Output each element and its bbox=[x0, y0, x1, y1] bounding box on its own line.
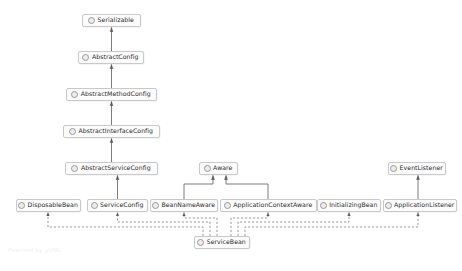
interface-circle-icon bbox=[18, 202, 25, 209]
class-node-label: Aware bbox=[213, 165, 232, 171]
interface-circle-icon bbox=[88, 17, 95, 24]
class-node-label: Serializable bbox=[98, 17, 134, 23]
class-node-label: AbstractServiceConfig bbox=[81, 165, 151, 171]
class-node-label: EventListener bbox=[400, 165, 443, 171]
class-node-label: BeanNameAware bbox=[161, 202, 215, 208]
edge-service-bean-to-application-listener bbox=[245, 213, 418, 237]
class-node-aware[interactable]: Aware bbox=[199, 162, 238, 175]
edge-bean-name-aware-to-aware bbox=[184, 176, 213, 200]
class-node-event-listener[interactable]: EventListener bbox=[388, 162, 446, 175]
interface-circle-icon bbox=[91, 202, 98, 209]
edge-service-bean-to-disposable-bean bbox=[48, 213, 203, 237]
watermark-label: Powered by yUML bbox=[8, 247, 61, 253]
class-node-label: DisposableBean bbox=[28, 202, 78, 208]
class-node-service-config[interactable]: ServiceConfig bbox=[87, 199, 148, 212]
interface-circle-icon bbox=[320, 202, 327, 209]
class-node-bean-name-aware[interactable]: BeanNameAware bbox=[150, 199, 218, 212]
edge-service-bean-to-bean-name-aware bbox=[184, 213, 217, 237]
edge-application-context-aware-to-aware bbox=[226, 176, 268, 200]
class-node-label: ServiceConfig bbox=[100, 202, 143, 208]
class-node-disposable-bean[interactable]: DisposableBean bbox=[16, 199, 81, 212]
interface-circle-icon bbox=[82, 54, 89, 61]
class-node-label: InitializingBean bbox=[329, 202, 377, 208]
interface-circle-icon bbox=[385, 202, 392, 209]
interface-circle-icon bbox=[197, 239, 204, 246]
interface-circle-icon bbox=[69, 128, 76, 135]
interface-circle-icon bbox=[71, 165, 78, 172]
class-node-label: ApplicationListener bbox=[394, 202, 454, 208]
interface-circle-icon bbox=[204, 165, 211, 172]
class-node-application-listener[interactable]: ApplicationListener bbox=[383, 199, 457, 212]
class-node-label: AbstractConfig bbox=[92, 54, 139, 60]
interface-circle-icon bbox=[390, 165, 397, 172]
uml-class-diagram-canvas: SerializableAbstractConfigAbstractMethod… bbox=[0, 0, 462, 271]
class-node-label: ServiceBean bbox=[207, 239, 246, 245]
class-node-label: AbstractMethodConfig bbox=[81, 91, 151, 97]
class-node-abstract-method-config[interactable]: AbstractMethodConfig bbox=[66, 88, 157, 101]
edge-service-bean-to-application-context-aware bbox=[231, 213, 268, 237]
class-node-service-bean[interactable]: ServiceBean bbox=[194, 236, 250, 249]
interface-circle-icon bbox=[224, 202, 231, 209]
interface-circle-icon bbox=[152, 202, 159, 209]
interface-circle-icon bbox=[71, 91, 78, 98]
class-node-application-context-aware[interactable]: ApplicationContextAware bbox=[220, 199, 317, 212]
class-node-initializing-bean[interactable]: InitializingBean bbox=[317, 199, 381, 212]
class-node-serializable[interactable]: Serializable bbox=[82, 14, 141, 27]
class-node-label: AbstractInterfaceConfig bbox=[78, 128, 153, 134]
edge-service-bean-to-initializing-bean bbox=[238, 213, 349, 237]
class-node-label: ApplicationContextAware bbox=[233, 202, 312, 208]
class-node-abstract-interface-config[interactable]: AbstractInterfaceConfig bbox=[63, 125, 160, 138]
class-node-abstract-config[interactable]: AbstractConfig bbox=[78, 51, 144, 64]
edge-service-bean-to-service-config bbox=[118, 213, 211, 237]
class-node-abstract-service-config[interactable]: AbstractServiceConfig bbox=[65, 162, 158, 175]
